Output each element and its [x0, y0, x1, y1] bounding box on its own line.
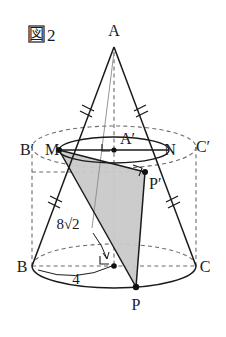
dot-base-center [111, 263, 117, 269]
label-B: B [17, 258, 28, 275]
label-C: C [200, 258, 211, 275]
figure-tag: 図 2 [29, 25, 56, 45]
figure-tag-number: 2 [47, 26, 56, 45]
label-Pprime: P′ [149, 175, 161, 192]
label-Aprime: A′ [120, 130, 135, 147]
label-Bprime: B′ [20, 141, 34, 158]
dot-Aprime [111, 147, 116, 152]
figure-page: 図 2 A B′ M A′ N C′ P′ B C P 8√2 4 [0, 0, 226, 337]
figure-tag-symbol: 図 [29, 25, 44, 43]
dot-Pprime [142, 169, 148, 175]
label-N: N [164, 141, 176, 158]
label-slant-measure: 8√2 [56, 216, 79, 232]
label-apex-A: A [108, 22, 120, 39]
label-M: M [45, 141, 59, 158]
label-radius-measure: 4 [72, 271, 80, 287]
dot-P [133, 284, 139, 290]
label-P: P [132, 296, 141, 313]
geometry-diagram: 図 2 A B′ M A′ N C′ P′ B C P 8√2 4 [0, 0, 226, 337]
label-Cprime: C′ [196, 138, 210, 155]
